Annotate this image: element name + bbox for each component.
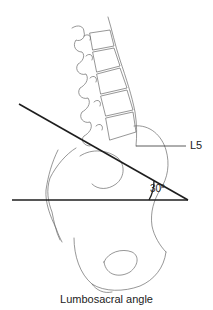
vertebra-l4 <box>101 90 133 116</box>
figure-caption: Lumbosacral angle <box>0 293 213 305</box>
vertebra-l2 <box>93 48 120 72</box>
obturator-foramen <box>104 250 137 275</box>
pelvis <box>46 126 168 293</box>
lumbosacral-diagram <box>0 0 213 310</box>
sacrum <box>48 148 76 240</box>
angle-label: 30° <box>150 184 165 194</box>
l5-label: L5 <box>190 140 202 151</box>
ilium-body <box>80 151 123 189</box>
vertebra-l1 <box>90 30 114 50</box>
posterior-elements <box>72 26 91 146</box>
anterior-spine-contour <box>108 17 137 146</box>
lumbar-spine <box>72 17 137 146</box>
vertebra-l3 <box>97 68 127 94</box>
ischium <box>74 238 166 290</box>
vertebra-l5 <box>106 112 136 140</box>
